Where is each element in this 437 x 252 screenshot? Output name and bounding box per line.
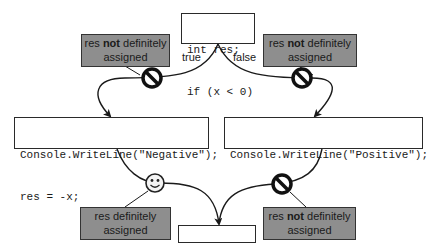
note-emphasis: not <box>287 37 304 49</box>
negative-code-box: Console.WriteLine("Negative"); res = -x; <box>14 117 209 149</box>
code-line: if (x < 0) <box>187 85 249 99</box>
note-emphasis: not <box>103 37 120 49</box>
note-text: assigned <box>82 50 169 64</box>
note-text: res <box>85 37 103 49</box>
note-text: assigned <box>81 223 170 237</box>
return-code-box: return res; <box>178 225 256 243</box>
note-not-assigned-top-left: res not definitely assigned <box>81 34 170 67</box>
note-text: definitely <box>304 210 350 222</box>
note-not-assigned-top-right: res not definitely assigned <box>263 34 357 67</box>
connector-top-left <box>125 66 140 75</box>
note-text: definitely <box>120 37 166 49</box>
note-text: res definitely <box>95 210 157 222</box>
note-text: res <box>269 37 287 49</box>
note-text: res <box>269 210 287 222</box>
code-line: res = -x; <box>20 190 203 204</box>
note-assigned-bottom-left: res definitely assigned <box>80 207 171 240</box>
start-code-box: int res; if (x < 0) <box>181 13 255 44</box>
definite-assignment-diagram: int res; if (x < 0) true false res not d… <box>0 0 437 252</box>
prohibited-icon <box>293 69 311 87</box>
note-emphasis: not <box>287 210 304 222</box>
code-line: Console.WriteLine("Negative"); <box>20 148 203 162</box>
note-text: assigned <box>264 223 355 237</box>
connector-bottom-right <box>290 192 306 207</box>
note-text: assigned <box>264 50 356 64</box>
edge-label-true: true <box>182 51 201 63</box>
note-text: definitely <box>304 37 350 49</box>
note-not-assigned-bottom-right: res not definitely assigned <box>263 207 356 240</box>
code-line: Console.WriteLine("Positive"); <box>230 148 417 162</box>
positive-code-box: Console.WriteLine("Positive"); <box>224 117 423 149</box>
prohibited-icon <box>143 69 161 87</box>
edge-label-false: false <box>233 51 256 63</box>
